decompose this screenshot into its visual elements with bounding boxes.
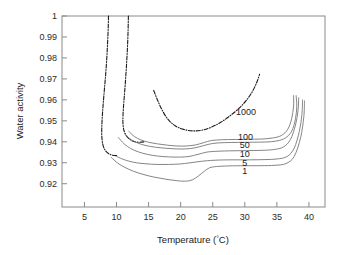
curve-10 [118,98,298,157]
x-tick-label: 40 [304,212,314,222]
y-tick-label: 0.93 [39,158,57,168]
y-tick-label: 0.97 [39,74,57,84]
axes-frame [62,16,325,207]
curve-dashdot-left-inner [123,16,145,142]
chart-canvas: 510152025303540 0.920.930.940.950.960.97… [0,0,342,255]
y-tick-label: 0.98 [39,53,57,63]
x-tick-label: 20 [176,212,186,222]
x-tick-label: 25 [208,212,218,222]
x-tick-label: 10 [112,212,122,222]
curve-label-1: 1 [242,166,247,176]
x-tick-label: 15 [144,212,154,222]
y-tick-label: 0.94 [39,137,57,147]
y-tick-label: 0.92 [39,179,57,189]
water-activity-chart: 510152025303540 0.920.930.940.950.960.97… [0,0,342,255]
curve-5 [117,100,303,165]
y-axis-ticks: 0.920.930.940.950.960.970.980.991 [39,11,67,189]
x-tick-label: 35 [272,212,282,222]
x-tick-label: 5 [82,212,87,222]
x-axis-ticks: 510152025303540 [82,202,314,222]
x-axis-title: Temperature (°C) [157,234,229,245]
x-title-part: C) [219,234,229,245]
x-tick-label: 30 [240,212,250,222]
x-title-part: Temperature ( [157,234,217,245]
curve-dashdot-left-outer [102,16,117,156]
y-tick-label: 1 [52,11,57,21]
curve-1000 [154,74,260,131]
curve-100 [129,96,294,146]
y-tick-label: 0.99 [39,32,57,42]
y-tick-label: 0.95 [39,116,57,126]
y-tick-label: 0.96 [39,95,57,105]
curve-label-1000: 1000 [236,107,256,117]
plot-frame [62,16,325,207]
contour-curves [102,16,305,181]
y-axis-title: Water activity [14,82,25,139]
